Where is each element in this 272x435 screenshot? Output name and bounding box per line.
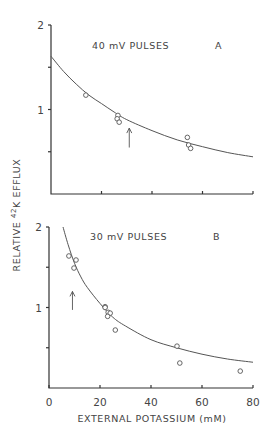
fit-curve — [51, 56, 253, 157]
data-point — [105, 314, 110, 319]
panel-label: B — [213, 231, 220, 242]
arrow-icon — [70, 291, 75, 310]
figure: 1240 mV PULSESA 1202040608030 mV PULSESB… — [0, 0, 272, 435]
panel-a: 1240 mV PULSESA — [37, 19, 253, 194]
x-tick-label: 20 — [93, 396, 106, 408]
y-tick-label: 1 — [37, 104, 44, 116]
data-point — [67, 254, 72, 259]
y-tick-label: 2 — [35, 221, 42, 233]
data-point — [188, 146, 193, 151]
panel-b: 1202040608030 mV PULSESB — [35, 221, 259, 408]
data-point — [117, 120, 122, 125]
data-point — [185, 135, 190, 140]
data-point — [178, 361, 183, 366]
data-point — [113, 328, 118, 333]
panel-title: 40 mV PULSES — [92, 40, 169, 51]
data-point — [175, 344, 180, 349]
panel-title: 30 mV PULSES — [90, 231, 167, 242]
y-tick-label: 2 — [37, 19, 44, 31]
x-tick-label: 80 — [246, 396, 259, 408]
y-tick-label: 1 — [35, 302, 42, 314]
data-point — [72, 266, 77, 271]
x-axis-label: EXTERNAL POTASSIUM (mM) — [77, 413, 226, 424]
x-tick-label: 60 — [195, 396, 208, 408]
panel-label: A — [215, 40, 222, 51]
data-point — [103, 305, 108, 310]
arrow-icon — [127, 128, 132, 147]
x-tick-label: 40 — [144, 396, 157, 408]
data-point — [84, 93, 89, 98]
fit-curve — [63, 227, 253, 362]
data-point — [74, 258, 79, 263]
data-point — [238, 369, 243, 374]
x-tick-label: 0 — [46, 396, 53, 408]
axes — [49, 227, 253, 388]
y-axis-label: RELATIVE 42K EFFLUX — [10, 159, 22, 272]
